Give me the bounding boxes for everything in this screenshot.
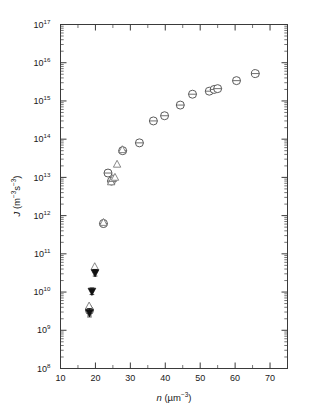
x-tick-label: 10: [55, 373, 65, 383]
x-axis-tick-labels: 10203040506070: [55, 373, 275, 383]
y-tick-label: 1012: [34, 209, 51, 221]
marker-triangle-down-filled: [91, 270, 99, 277]
data-series-group: [85, 70, 259, 317]
x-tick-label: 70: [265, 373, 275, 383]
marker-triangle-down-filled: [88, 288, 96, 295]
marker-triangle-up-open: [85, 302, 92, 309]
y-axis-tick-labels: 10810910101011101210131014101510161017: [34, 18, 51, 374]
x-tick-label: 40: [160, 373, 170, 383]
x-tick-label: 20: [90, 373, 100, 383]
svg-text:n (µm−3): n (µm−3): [157, 391, 192, 403]
y-tick-label: 1013: [34, 171, 51, 183]
y-tick-label: 1010: [34, 285, 51, 297]
svg-text:J (m−3s−3): J (m−3s−3): [10, 176, 22, 218]
y-tick-label: 108: [37, 362, 51, 374]
y-tick-label: 1017: [34, 18, 51, 30]
x-tick-label: 60: [230, 373, 240, 383]
x-tick-label: 30: [125, 373, 135, 383]
y-tick-label: 1015: [34, 94, 51, 106]
y-tick-label: 1014: [34, 132, 51, 144]
x-axis-title: n (µm−3): [157, 391, 192, 403]
marker-triangle-up-open: [91, 263, 98, 270]
series-filled-down-triangle: [86, 269, 99, 316]
x-tick-label: 50: [195, 373, 205, 383]
y-axis-title: J (m−3s−3): [10, 176, 22, 218]
marker-triangle-up-open: [113, 160, 120, 167]
series-open-circle: [85, 70, 259, 316]
y-tick-label: 1016: [34, 56, 51, 68]
y-tick-label: 109: [37, 323, 51, 335]
scatter-plot: 10203040506070 1081091010101110121013101…: [0, 0, 317, 413]
figure-container: 10203040506070 1081091010101110121013101…: [0, 0, 317, 413]
y-tick-label: 1011: [34, 247, 51, 259]
